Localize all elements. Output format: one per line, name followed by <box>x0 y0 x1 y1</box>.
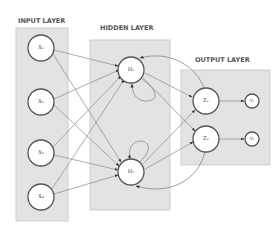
svg-text:Z₂: Z₂ <box>203 135 208 141</box>
node-x3: X₃ <box>28 140 54 166</box>
svg-text:X₁: X₁ <box>38 44 44 50</box>
node-h2: H₂ <box>118 159 144 185</box>
hidden-layer-label: HIDDEN LAYER <box>100 24 154 32</box>
node-y2: Y₂ <box>245 132 259 146</box>
node-z2: Z₂ <box>193 126 219 152</box>
node-x4: X₄ <box>28 184 54 210</box>
output-layer-label: OUTPUT LAYER <box>195 56 250 64</box>
node-y1: Y₁ <box>245 94 259 108</box>
svg-text:X₂: X₂ <box>38 98 44 104</box>
svg-text:X₄: X₄ <box>38 193 44 199</box>
output-layer-box <box>181 70 270 165</box>
input-layer-label: INPUT LAYER <box>18 17 65 25</box>
node-x1: X₁ <box>28 35 54 61</box>
node-h1: H₁ <box>118 57 144 83</box>
node-z1: Z₁ <box>193 88 219 114</box>
svg-text:X₃: X₃ <box>38 149 44 155</box>
svg-text:H₁: H₁ <box>128 66 134 72</box>
svg-text:Z₁: Z₁ <box>203 97 208 103</box>
svg-text:Y₂: Y₂ <box>249 136 255 141</box>
node-x2: X₂ <box>28 89 54 115</box>
svg-text:Y₁: Y₁ <box>249 98 255 103</box>
svg-text:H₂: H₂ <box>128 168 134 174</box>
neural-network-diagram: INPUT LAYER HIDDEN LAYER OUTPUT LAYER X₁… <box>0 0 280 232</box>
